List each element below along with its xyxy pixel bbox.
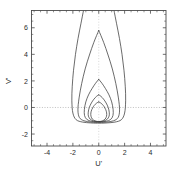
x-tick-label: 4 [149, 149, 153, 156]
x-tick-label: 2 [123, 149, 127, 156]
x-tick-label: -4 [44, 149, 50, 156]
x-tick-label: 0 [97, 149, 101, 156]
y-tick-label: -2 [22, 131, 28, 138]
chart-figure: -4-2024-20246 U' V' [0, 0, 176, 184]
y-tick-label: 6 [24, 24, 28, 31]
y-axis-label: V' [4, 77, 13, 84]
x-tick-label: -2 [70, 149, 76, 156]
y-tick-label: 4 [24, 51, 28, 58]
y-tick-label: 2 [24, 78, 28, 85]
x-axis-label: U' [95, 159, 102, 168]
chart-svg: -4-2024-20246 U' V' [0, 0, 176, 184]
y-tick-label: 0 [24, 104, 28, 111]
tick-labels: -4-2024-20246 [22, 24, 153, 155]
